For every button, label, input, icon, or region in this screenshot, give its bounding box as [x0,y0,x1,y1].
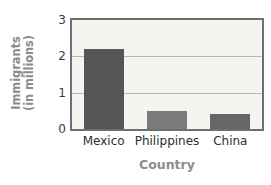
bar-chart-figure: Immigrants (in millions) 0123 MexicoPhil… [0,0,271,185]
x-axis-category-label: Mexico [83,133,125,149]
plot-inner [72,20,262,129]
y-axis-title-line-1: Immigrants [9,36,23,109]
x-axis-category-label: China [213,133,247,149]
y-axis-title-line-2: (in millions) [23,35,36,111]
bar [210,114,250,129]
y-axis-tick-label: 3 [46,14,66,26]
bar [84,49,124,129]
y-axis-tick-labels: 0123 [46,0,66,185]
bar [147,111,187,129]
x-axis-category-labels: MexicoPhilippinesChina [70,133,264,151]
x-axis-category-label: Philippines [135,133,200,149]
y-axis-tick-label: 0 [46,123,66,135]
x-axis-title: Country [70,158,264,172]
y-axis-tick-label: 1 [46,87,66,99]
y-axis-title: Immigrants (in millions) [0,14,46,132]
y-axis-tick-label: 2 [46,50,66,62]
plot-area [70,18,264,131]
y-axis-title-text: Immigrants (in millions) [10,35,36,111]
